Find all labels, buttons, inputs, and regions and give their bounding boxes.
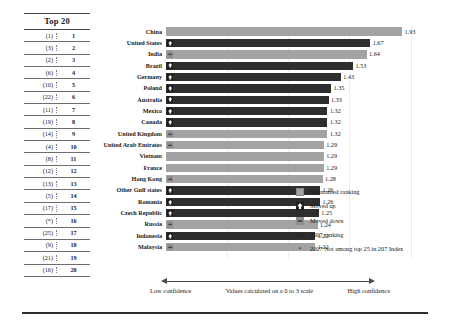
ranking-row: (4)10 [24,141,90,153]
arrow-up-icon [167,85,174,92]
bar-up: 1.32 [166,107,327,115]
current-rank-cell: 14 [57,193,90,199]
current-rank-cell: 3 [57,57,90,63]
current-rank-cell: 9 [57,131,90,137]
bar-container: 1.93 [166,26,435,37]
ranking-row: (19)8 [24,116,90,128]
bar-maintained: 1.93 [166,27,402,35]
category-label: Hong Kong [90,176,166,182]
current-rank-cell: 4 [57,70,90,76]
arrow-up-icon [167,210,174,217]
bar-container: 1.43 [166,71,435,82]
category-label: China [90,29,166,35]
ranking-row: (3)2 [24,42,90,54]
bar-row: Mexico1.32 [90,105,435,116]
arrow-down-icon [167,131,174,138]
arrow-up-icon [167,74,174,81]
legend-label: Moved up [310,203,336,209]
confidence-index-figure: Top 20 (1)1(3)2(2)3(6)4(10)5(22)6(11)7(1… [0,0,450,322]
ranking-rows: (1)1(3)2(2)3(6)4(10)5(22)6(11)7(19)8(14)… [24,30,90,277]
bar-row: Vietnam1.29 [90,151,435,162]
bar-container: 1.29 [166,162,435,173]
bar-value-label: 1.29 [326,153,337,159]
ranking-row: (10)5 [24,79,90,91]
ranking-row: (14)9 [24,129,90,141]
bar-up: 1.33 [166,96,329,104]
bar-value-label: 1.67 [373,40,384,46]
bar-row: India1.64 [90,49,435,60]
previous-rank-cell: (14) [24,131,57,137]
bar-container: 1.32 [166,117,435,128]
bar-value-label: 1.32 [330,131,341,137]
bar-row: United States1.67 [90,37,435,48]
previous-rank-cell: (25) [24,230,57,236]
current-rank-cell: 5 [57,82,90,88]
bar-down: 1.24 [166,220,318,228]
category-label: Russia [90,221,166,227]
bar-value-label: 1.93 [404,29,415,35]
arrow-up-icon [167,187,174,194]
axis-low-label: Low confidence [150,288,191,294]
current-rank-cell: 1 [57,33,90,39]
arrow-up-icon [167,199,174,206]
legend: Maintained rankingMoved upMoved down(#)2… [296,185,403,256]
category-label: United Kingdom [90,131,166,137]
ranking-row: (1)1 [24,30,90,42]
bar-row: France1.29 [90,162,435,173]
bar-container: 1.53 [166,60,435,71]
current-rank-cell: 16 [57,218,90,224]
previous-rank-cell: (2) [24,57,57,63]
previous-rank-cell: (6) [24,70,57,76]
arrow-up-icon [167,40,174,47]
bar-value-label: 1.32 [330,108,341,114]
previous-rank-cell: (4) [24,144,57,150]
current-rank-cell: 17 [57,230,90,236]
ranking-row: (9)18 [24,240,90,252]
bar-row: United Arab Emirates1.29 [90,139,435,150]
category-label: India [90,51,166,57]
bar-value-label: 1.28 [325,176,336,182]
arrow-up-icon [296,202,304,210]
previous-rank-cell: (*) [24,218,57,224]
ranking-row: (17)15 [24,203,90,215]
bar-row: Germany1.43 [90,71,435,82]
category-label: Romania [90,199,166,205]
ranking-row: (*)16 [24,215,90,227]
table-header: Top 20 [24,13,90,30]
ranking-row: (11)7 [24,104,90,116]
previous-rank-cell: (16) [24,267,57,273]
ranking-row: (12)12 [24,166,90,178]
previous-rank-cell: (13) [24,181,57,187]
bar-maintained: 1.29 [166,152,324,160]
previous-rank-cell: (9) [24,242,57,248]
bar-row: China1.93 [90,26,435,37]
legend-item-maintained: Maintained ranking [296,185,403,199]
bar-container: 1.64 [166,49,435,60]
category-label: France [90,165,166,171]
ranking-row: (16)20 [24,265,90,277]
legend-label: Moved down [310,218,343,224]
current-rank-cell: 18 [57,242,90,248]
bar-row: Poland1.35 [90,83,435,94]
ranking-row: (8)11 [24,153,90,165]
axis-arrow-right-icon [369,278,375,284]
bar-up: 1.67 [166,39,370,47]
bar-container: 1.29 [166,139,435,150]
current-rank-cell: 20 [57,267,90,273]
legend-item-prev-rank: (#)2007 ranking [296,228,403,242]
bottom-divider [22,312,428,314]
legend-swatch-not-ranked: * [296,245,304,253]
ranking-row: (13)13 [24,178,90,190]
category-label: Vietnam [90,153,166,159]
bar-row: Canada1.32 [90,117,435,128]
current-rank-cell: 15 [57,205,90,211]
previous-rank-cell: (12) [24,168,57,174]
category-label: Other Gulf states [90,187,166,193]
current-rank-cell: 19 [57,255,90,261]
category-label: United States [90,40,166,46]
category-label: Czech Republic [90,210,166,216]
legend-label: 2007 ranking [310,232,343,238]
previous-rank-cell: (10) [24,82,57,88]
bar-up: 1.35 [166,84,331,92]
arrow-up-icon [167,119,174,126]
